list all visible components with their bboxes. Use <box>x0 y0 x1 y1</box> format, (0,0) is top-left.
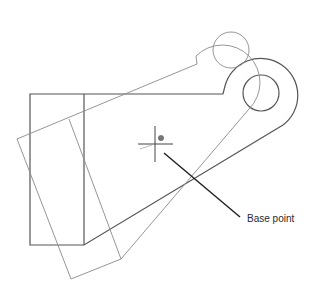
rotated-outline <box>17 45 260 279</box>
original-hole <box>243 75 279 111</box>
rotated-hole <box>213 32 249 68</box>
base-point-marker-icon[interactable] <box>158 135 163 140</box>
cad-drawing-canvas[interactable]: Base point <box>0 0 312 289</box>
base-point-label: Base point <box>247 213 294 224</box>
annotation-leader-line <box>164 153 240 217</box>
rotated-bracket-preview <box>17 32 260 279</box>
